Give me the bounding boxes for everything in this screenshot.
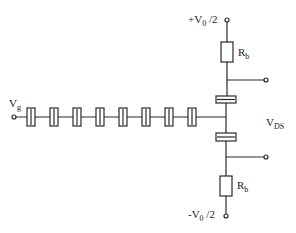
capacitor-2	[50, 108, 58, 126]
capacitor-5	[119, 108, 127, 126]
label-vplus: +V0 /2	[188, 14, 217, 28]
lower-channel-element	[216, 133, 236, 141]
label-vg: Vg	[9, 98, 21, 112]
upper-output-terminal	[264, 78, 268, 82]
resistor-rb-top	[221, 42, 233, 62]
upper-channel-element	[216, 96, 236, 103]
circuit-diagram	[0, 0, 296, 233]
label-vminus: -V0 /2	[188, 209, 215, 223]
label-vds: VDS	[266, 117, 284, 131]
capacitor-6	[142, 108, 150, 126]
label-rb-bottom: Rb	[237, 180, 248, 194]
capacitor-4	[96, 108, 104, 126]
bottom-supply-terminal	[224, 214, 228, 218]
capacitor-3	[73, 108, 81, 126]
resistor-rb-bottom	[220, 176, 232, 196]
capacitor-1	[27, 108, 35, 126]
input-terminal-vg	[12, 115, 16, 119]
lower-output-terminal	[264, 155, 268, 159]
top-supply-terminal	[225, 18, 229, 22]
label-rb-top: Rb	[238, 47, 249, 61]
capacitor-7	[165, 108, 173, 126]
capacitor-8	[188, 108, 196, 126]
